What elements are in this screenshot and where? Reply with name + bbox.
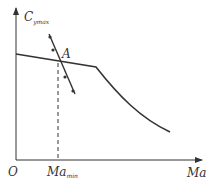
diagram-canvas: Cymax A O Mamin Ma [0,0,208,180]
ma-min-label: Mamin [46,165,78,179]
constraint-line [49,34,75,94]
constraint-dot [63,75,66,78]
origin-label: O [8,165,18,179]
x-axis-label: Ma [186,166,206,180]
constraint-dot [51,48,54,51]
point-a-label: A [61,47,71,61]
constraint-dot [48,35,51,38]
y-axis-label: Cymax [24,10,50,26]
cymax-curve [16,54,170,132]
constraint-dot [71,89,74,92]
